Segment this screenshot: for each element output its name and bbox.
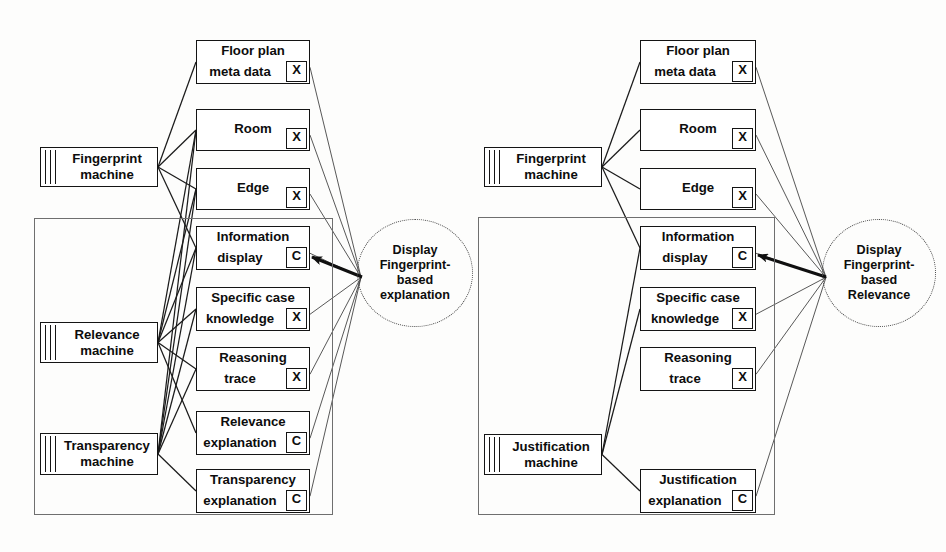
class-box-line2: meta data [197, 65, 283, 80]
stereotype-tag-x: X [732, 61, 753, 82]
use-case-label: DisplayFingerprint-basedexplanation [376, 243, 455, 303]
stereotype-tag-c: C [732, 490, 753, 511]
class-box-line1: Information [641, 230, 755, 245]
stereotype-tag-x: X [732, 368, 753, 389]
class-box-line1: Reasoning [197, 351, 309, 366]
class-box-line2: explanation [197, 436, 283, 451]
class-box-line2: display [197, 251, 283, 266]
stereotype-tag-x: X [732, 128, 753, 149]
stereotype-tag-c: C [286, 490, 307, 511]
class-box-information-display[interactable]: InformationdisplayC [196, 226, 310, 270]
component-label: Transparencymachine [64, 438, 150, 469]
class-box-information-display-2[interactable]: InformationdisplayC [640, 226, 756, 270]
class-box-line2: knowledge [641, 312, 729, 327]
class-box-line2: trace [641, 372, 729, 387]
class-box-room-2[interactable]: RoomX [640, 109, 756, 151]
class-box-reasoning-trace[interactable]: ReasoningtraceX [196, 347, 310, 391]
component-justification-machine[interactable]: Justificationmachine [484, 434, 602, 475]
stereotype-tag-x: X [732, 187, 753, 208]
class-box-specific-case-knowledge[interactable]: Specific caseknowledgeX [196, 287, 310, 331]
stereotype-tag-c: C [286, 432, 307, 453]
component-bars-icon [489, 437, 500, 472]
class-box-line1: Information [197, 230, 309, 245]
diagram-canvas: FingerprintmachineRelevancemachineTransp… [0, 0, 946, 552]
stereotype-tag-x: X [286, 128, 307, 149]
component-label: Justificationmachine [512, 439, 590, 470]
class-box-line1: Justification [641, 473, 755, 488]
use-case-display-fingerprint-based-relevance[interactable]: DisplayFingerprint-basedRelevance [822, 219, 936, 327]
class-box-relevance-explanation[interactable]: RelevanceexplanationC [196, 411, 310, 455]
component-label: Fingerprintmachine [72, 151, 142, 182]
component-bars-icon [489, 150, 500, 184]
stereotype-tag-c: C [286, 247, 307, 268]
component-label: Fingerprintmachine [516, 151, 586, 182]
class-box-line2: knowledge [197, 312, 283, 327]
stereotype-tag-x: X [732, 308, 753, 329]
class-box-line1: Specific case [641, 291, 755, 306]
class-box-line2: display [641, 251, 729, 266]
stereotype-tag-x: X [286, 368, 307, 389]
class-box-line1: Relevance [197, 415, 309, 430]
class-box-line1: Transparency [197, 473, 309, 488]
component-bars-icon [45, 150, 56, 184]
component-fingerprint-machine-2[interactable]: Fingerprintmachine [484, 147, 602, 187]
component-fingerprint-machine[interactable]: Fingerprintmachine [40, 147, 158, 187]
class-box-line1: Reasoning [641, 351, 755, 366]
stereotype-tag-x: X [286, 308, 307, 329]
class-box-line1: Floor plan [197, 44, 309, 59]
stereotype-tag-c: C [732, 247, 753, 268]
component-bars-icon [45, 325, 56, 360]
stereotype-tag-x: X [286, 61, 307, 82]
use-case-label: DisplayFingerprint-basedRelevance [840, 243, 919, 303]
component-label: Relevancemachine [74, 327, 139, 358]
class-box-justification-explanation[interactable]: JustificationexplanationC [640, 469, 756, 513]
component-transparency-machine[interactable]: Transparencymachine [40, 433, 158, 475]
class-box-floor-plan-meta-data-2[interactable]: Floor planmeta dataX [640, 40, 756, 84]
class-box-edge[interactable]: EdgeX [196, 168, 310, 210]
class-box-line2: explanation [641, 494, 729, 509]
class-box-specific-case-knowledge-2[interactable]: Specific caseknowledgeX [640, 287, 756, 331]
component-relevance-machine[interactable]: Relevancemachine [40, 322, 158, 363]
component-bars-icon [45, 436, 56, 472]
class-box-line2: explanation [197, 494, 283, 509]
class-box-transparency-explanation[interactable]: TransparencyexplanationC [196, 469, 310, 513]
class-box-room[interactable]: RoomX [196, 109, 310, 151]
class-box-edge-2[interactable]: EdgeX [640, 168, 756, 210]
class-box-line1: Floor plan [641, 44, 755, 59]
class-box-line2: trace [197, 372, 283, 387]
use-case-display-fingerprint-based-explanation[interactable]: DisplayFingerprint-basedexplanation [357, 219, 473, 327]
class-box-line1: Specific case [197, 291, 309, 306]
stereotype-tag-x: X [286, 187, 307, 208]
class-box-floor-plan-meta-data[interactable]: Floor planmeta dataX [196, 40, 310, 84]
class-box-reasoning-trace-2[interactable]: ReasoningtraceX [640, 347, 756, 391]
class-box-line2: meta data [641, 65, 729, 80]
